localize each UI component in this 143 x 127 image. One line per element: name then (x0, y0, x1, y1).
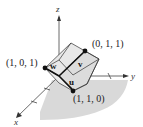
y-axis-label: y (130, 71, 135, 81)
point-1-0-1-dot (43, 66, 48, 71)
z-axis-label: z (55, 4, 60, 14)
point-label-1-0-1: (1, 0, 1) (6, 57, 38, 69)
vector-label-v: v (78, 59, 83, 69)
point-label-1-1-0: (1, 1, 0) (73, 93, 105, 105)
z-arrow-icon (57, 15, 61, 21)
diagram-canvas: z y x (1, 0, 1) (0, 1, 1) (1, 1, 0) w v … (0, 0, 143, 127)
y-arrow-icon (123, 74, 129, 78)
vector-label-u: u (69, 77, 74, 87)
vector-label-w: w (50, 61, 57, 71)
x-axis-label: x (13, 117, 18, 127)
point-label-0-1-1: (0, 1, 1) (92, 38, 124, 50)
point-0-1-1-dot (83, 49, 88, 54)
